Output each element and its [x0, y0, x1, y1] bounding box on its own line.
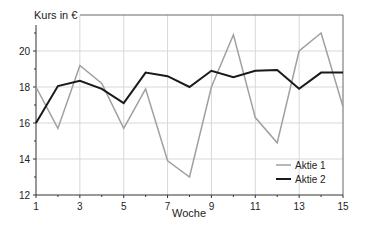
line-chart: 121416182013579111315 Kurs in € Woche Ak…	[0, 0, 365, 231]
x-tick-label: 5	[121, 201, 127, 212]
x-axis-title: Woche	[172, 207, 206, 219]
y-tick-label: 18	[19, 82, 31, 93]
x-tick-label: 15	[337, 201, 349, 212]
y-tick-label: 16	[19, 118, 31, 129]
y-tick-label: 14	[19, 154, 31, 165]
y-tick-label: 12	[19, 190, 31, 201]
x-tick-label: 9	[209, 201, 215, 212]
x-tick-label: 1	[33, 201, 39, 212]
x-tick-label: 3	[77, 201, 83, 212]
x-tick-label: 13	[294, 201, 306, 212]
series-line-aktie-1	[36, 33, 343, 177]
series-line-aktie-2	[36, 70, 343, 123]
data-series	[36, 33, 343, 177]
legend-label-aktie-2: Aktie 2	[295, 174, 326, 185]
legend-label-aktie-1: Aktie 1	[295, 160, 326, 171]
legend: Aktie 1 Aktie 2	[276, 160, 326, 185]
y-axis-title: Kurs in €	[34, 9, 77, 21]
x-tick-label: 11	[250, 201, 261, 212]
y-tick-label: 20	[19, 46, 31, 57]
x-tick-label: 7	[165, 201, 171, 212]
